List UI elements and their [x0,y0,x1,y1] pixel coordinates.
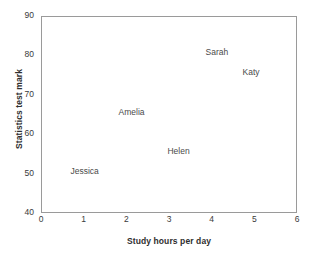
data-point-label: Amelia [119,107,145,116]
scatter-chart: Statistics test mark 405060708090 Jessic… [0,0,315,257]
data-point-label: Helen [167,146,189,155]
x-axis-title: Study hours per day [41,236,297,246]
data-point-label: Jessica [70,166,98,175]
y-tick-label-text: 80 [25,50,34,59]
x-tick-label-text: 6 [287,215,307,224]
y-tick-label-text: 90 [25,11,34,20]
x-tick-label-text: 5 [244,215,264,224]
x-tick-label-text: 1 [74,215,94,224]
plot-area: JessicaAmeliaHelenSarahKaty [41,16,297,213]
x-tick-label-text: 3 [159,215,179,224]
data-point-label: Sarah [206,48,229,57]
y-tick-label-text: 70 [25,90,34,99]
x-tick-label-text: 4 [202,215,222,224]
x-tick-label-text: 2 [116,215,136,224]
y-axis-title: Statistics test mark [14,14,24,204]
data-point-label: Katy [243,68,260,77]
x-tick-label-text: 0 [31,215,51,224]
y-tick-label-text: 60 [25,129,34,138]
y-tick-label-text: 50 [25,169,34,178]
